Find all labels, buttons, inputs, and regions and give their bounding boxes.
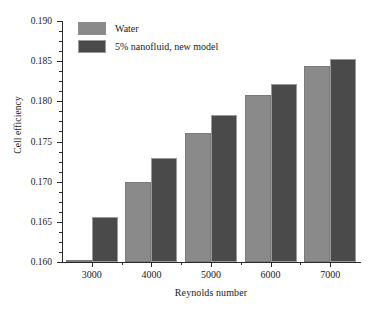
y-tick-label: 0.160 [31, 255, 52, 269]
y-tick-minor [59, 41, 62, 42]
legend-swatch-icon-water [78, 22, 106, 35]
y-tick-minor [59, 242, 62, 243]
y-tick-major: 0.190 [57, 21, 62, 22]
y-tick-minor [59, 121, 62, 122]
y-tick-label: 0.165 [31, 215, 52, 229]
y-tick-major: 0.160 [57, 262, 62, 263]
y-tick-minor [59, 31, 62, 32]
y-tick-minor [59, 212, 62, 213]
y-tick-minor [59, 51, 62, 52]
y-tick-minor [59, 71, 62, 72]
bar [66, 260, 92, 262]
y-tick-minor [59, 81, 62, 82]
x-tick [271, 262, 272, 267]
bar-chart: Cell efficiency Reynolds number 0.1600.1… [0, 0, 371, 311]
bar [330, 59, 356, 262]
y-tick-label: 0.170 [31, 175, 52, 189]
legend: Water 5% nanofluid, new model [78, 19, 218, 55]
y-tick-minor [59, 152, 62, 153]
y-tick-major: 0.165 [57, 222, 62, 223]
y-tick-label: 0.185 [31, 54, 52, 68]
x-tick [211, 262, 212, 267]
y-tick-minor [59, 232, 62, 233]
y-axis-label: Cell efficiency [13, 65, 23, 185]
y-axis-line [62, 21, 63, 262]
bar [92, 217, 118, 262]
x-tick [151, 262, 152, 267]
y-tick-label: 0.175 [31, 135, 52, 149]
y-tick-minor [59, 252, 62, 253]
x-tick [92, 262, 93, 267]
x-tick-minor [181, 262, 182, 265]
y-tick-minor [59, 91, 62, 92]
y-tick-minor [59, 111, 62, 112]
legend-label-nanofluid: 5% nanofluid, new model [115, 41, 218, 52]
x-tick-label: 7000 [320, 269, 340, 280]
bar [151, 158, 177, 262]
legend-label-water: Water [115, 23, 139, 34]
x-tick-label: 5000 [201, 269, 221, 280]
y-tick-minor [59, 162, 62, 163]
y-tick-major: 0.180 [57, 101, 62, 102]
y-tick-major: 0.170 [57, 182, 62, 183]
y-tick-minor [59, 131, 62, 132]
x-axis-label: Reynolds number [62, 287, 360, 298]
x-tick-minor [122, 262, 123, 265]
y-tick-major: 0.175 [57, 142, 62, 143]
y-tick-label: 0.180 [31, 94, 52, 108]
x-tick-label: 6000 [261, 269, 281, 280]
legend-swatch-icon-nanofluid [78, 40, 106, 53]
y-tick-minor [59, 202, 62, 203]
y-tick-major: 0.185 [57, 61, 62, 62]
x-tick [330, 262, 331, 267]
x-tick-minor [300, 262, 301, 265]
y-tick-label: 0.190 [31, 14, 52, 28]
bar [304, 66, 330, 262]
x-tick-label: 3000 [82, 269, 102, 280]
y-tick-minor [59, 172, 62, 173]
plot-area: 0.1600.1650.1700.1750.1800.1850.190 3000… [62, 21, 360, 262]
y-tick-minor [59, 192, 62, 193]
legend-item-water: Water [78, 19, 218, 37]
x-tick-label: 4000 [141, 269, 161, 280]
bar [271, 84, 297, 262]
x-tick-minor [241, 262, 242, 265]
bar [125, 182, 151, 262]
bar [185, 133, 211, 262]
bar [245, 95, 271, 262]
bar [211, 115, 237, 262]
legend-item-nanofluid: 5% nanofluid, new model [78, 37, 218, 55]
